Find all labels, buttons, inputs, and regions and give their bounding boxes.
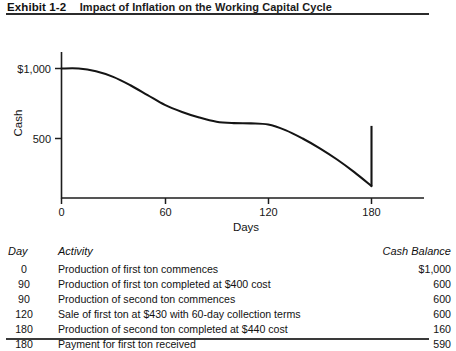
x-tick-label-120: 120 xyxy=(259,206,277,218)
cell-activity: Sale of first ton at $430 with 60-day co… xyxy=(48,307,371,322)
exhibit-label: Exhibit 1-2 xyxy=(7,1,66,13)
header-rule xyxy=(6,13,429,15)
x-tick-label-60: 60 xyxy=(159,206,171,218)
cell-day: 90 xyxy=(0,277,48,292)
cash-cycle-table: Day Activity Cash Balance 0 Production o… xyxy=(0,245,433,351)
cell-balance: 600 xyxy=(371,292,456,307)
table-head: Day Activity Cash Balance xyxy=(0,245,456,262)
y-tick-label-1000: $1,000 xyxy=(17,63,51,75)
exhibit-title: Impact of Inflation on the Working Capit… xyxy=(80,1,332,13)
table-row: 90 Production of second ton commences 60… xyxy=(0,292,456,307)
cash-balance-curve xyxy=(62,68,372,186)
cell-day: 180 xyxy=(0,321,48,336)
y-tick-label-500: 500 xyxy=(33,133,51,145)
cash-cycle-chart: $1,000 500 0 60 120 180 Days Cash xyxy=(0,18,433,240)
table-bottom-rule xyxy=(6,338,429,340)
cell-activity: Production of first ton completed at $40… xyxy=(48,277,371,292)
cell-balance: 600 xyxy=(371,307,456,322)
activity-table: Day Activity Cash Balance 0 Production o… xyxy=(0,245,456,351)
x-tick-label-180: 180 xyxy=(362,206,380,218)
y-axis-title: Cash xyxy=(12,110,24,137)
cell-balance: 600 xyxy=(371,277,456,292)
table-header-row: Day Activity Cash Balance xyxy=(0,245,456,262)
table-row: 90 Production of first ton completed at … xyxy=(0,277,456,292)
header-day: Day xyxy=(0,245,48,262)
cell-day: 120 xyxy=(0,307,48,322)
cell-day: 0 xyxy=(0,262,48,277)
table-row: 120 Sale of first ton at $430 with 60-da… xyxy=(0,307,456,322)
exhibit-header: Exhibit 1-2 Impact of Inflation on the W… xyxy=(0,0,433,13)
header-activity: Activity xyxy=(48,245,371,262)
x-axis-title: Days xyxy=(233,221,259,233)
table-row: 0 Production of first ton commences $1,0… xyxy=(0,262,456,277)
chart-svg: $1,000 500 0 60 120 180 Days Cash xyxy=(0,18,433,240)
cell-day: 90 xyxy=(0,292,48,307)
cell-balance: $1,000 xyxy=(371,262,456,277)
cell-activity: Production of first ton commences xyxy=(48,262,371,277)
table-row: 180 Production of second ton completed a… xyxy=(0,321,456,336)
cell-activity: Production of second ton commences xyxy=(48,292,371,307)
cell-activity: Production of second ton completed at $4… xyxy=(48,321,371,336)
header-cash-balance: Cash Balance xyxy=(371,245,456,262)
x-tick-label-0: 0 xyxy=(58,206,64,218)
cell-balance: 160 xyxy=(371,321,456,336)
